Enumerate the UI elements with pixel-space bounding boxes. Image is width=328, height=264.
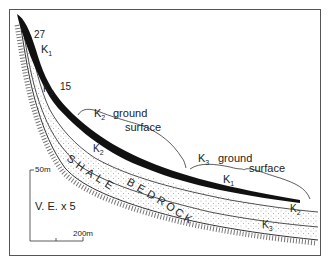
label-k3-surface-text: surface [249,162,285,174]
label-k3-ground-text: ground [218,152,252,164]
hillslope-cross-section: 27 K1 K3 15 K2 ground surface K2 K3 grou… [0,0,328,264]
label-k1-mid: K1 [223,173,234,187]
label-k2-ground-text: ground [113,107,147,119]
label-27: 27 [34,29,46,40]
k1-black-unit [17,14,300,203]
label-k2-ground: K2 [94,107,105,121]
scale-horizontal-label: 200m [73,229,93,238]
vertical-exaggeration-label: V. E. x 5 [35,200,76,212]
label-15: 15 [60,81,72,92]
scale-vertical-label: 50m [35,165,51,174]
label-k3-ground: K3 [198,152,209,166]
label-k1-top: K1 [41,43,52,57]
label-k2-surface-text: surface [125,121,161,133]
